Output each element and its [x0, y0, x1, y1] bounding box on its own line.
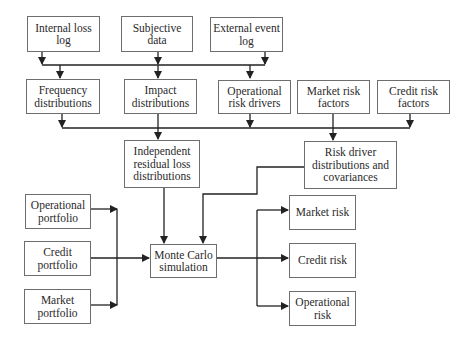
- node-market-risk-factors: Market risk factors: [297, 80, 370, 114]
- node-monte-carlo-simulation: Monte Carlo simulation: [150, 244, 217, 278]
- node-label: Independent residual loss distributions: [127, 145, 197, 183]
- node-label: Subjective data: [124, 22, 190, 47]
- node-impact-distributions: Impact distributions: [124, 79, 197, 114]
- node-frequency-distributions: Frequency distributions: [26, 79, 100, 114]
- node-label: External event log: [213, 22, 280, 47]
- node-label: Credit portfolio: [27, 246, 88, 271]
- node-label: Operational risk drivers: [221, 85, 288, 110]
- node-label: Market risk factors: [300, 85, 367, 110]
- node-risk-driver-distributions: Risk driver distributions and covariance…: [304, 141, 397, 189]
- node-label: Monte Carlo simulation: [153, 249, 214, 274]
- node-credit-portfolio: Credit portfolio: [24, 241, 91, 276]
- node-independent-residual-loss-distributions: Independent residual loss distributions: [124, 140, 200, 188]
- node-credit-risk: Credit risk: [289, 243, 356, 278]
- node-label: Credit risk: [298, 254, 347, 267]
- node-operational-risk: Operational risk: [289, 291, 356, 326]
- node-credit-risk-factors: Credit risk factors: [377, 80, 450, 114]
- node-market-portfolio: Market portfolio: [24, 289, 91, 324]
- node-market-risk: Market risk: [289, 195, 356, 230]
- node-label: Internal loss log: [30, 22, 97, 47]
- node-label: Operational portfolio: [28, 199, 88, 224]
- node-operational-risk-drivers: Operational risk drivers: [218, 80, 291, 114]
- node-label: Market risk: [296, 206, 349, 219]
- node-internal-loss-log: Internal loss log: [27, 16, 100, 52]
- node-label: Credit risk factors: [380, 85, 447, 110]
- node-operational-portfolio: Operational portfolio: [25, 194, 91, 229]
- node-label: Market portfolio: [27, 294, 88, 319]
- node-label: Impact distributions: [127, 84, 194, 109]
- node-external-event-log: External event log: [210, 17, 283, 52]
- node-subjective-data: Subjective data: [121, 16, 193, 52]
- node-label: Frequency distributions: [29, 84, 97, 109]
- node-label: Risk driver distributions and covariance…: [307, 146, 394, 184]
- node-label: Operational risk: [292, 296, 353, 321]
